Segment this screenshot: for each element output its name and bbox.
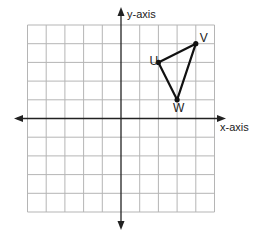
- coordinate-plane-diagram: y-axis x-axis UVW: [0, 0, 260, 235]
- y-axis-down-arrow-icon: [118, 221, 125, 230]
- vertex-u-label: U: [149, 54, 158, 68]
- y-axis-label: y-axis: [127, 8, 156, 20]
- x-axis-left-arrow-icon: [14, 115, 23, 122]
- vertex-w-label: W: [173, 101, 185, 115]
- y-axis-up-arrow-icon: [118, 7, 125, 16]
- axes: y-axis x-axis: [14, 7, 249, 230]
- vertex-v-label: V: [200, 31, 208, 45]
- x-axis-label: x-axis: [220, 121, 249, 133]
- coordinate-plane: y-axis x-axis UVW: [0, 0, 260, 235]
- vertex-v-point: [193, 41, 198, 46]
